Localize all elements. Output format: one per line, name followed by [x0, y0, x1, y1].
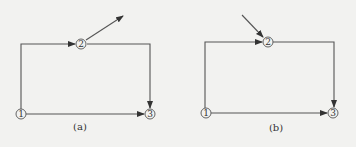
edge-incoming-to-2 [242, 15, 263, 37]
caption-a: (a) [73, 121, 87, 132]
svg-text:2: 2 [265, 37, 271, 47]
node-1: 1 [16, 109, 26, 119]
edge-1-to-2 [205, 42, 262, 108]
node-1: 1 [201, 108, 211, 118]
edge-2-outgoing [86, 16, 123, 40]
node-3: 3 [328, 108, 338, 118]
edge-1-to-2 [21, 44, 75, 109]
svg-text:1: 1 [18, 109, 24, 119]
panel-a: 1 2 3 (a) [16, 16, 155, 132]
edge-2-to-3 [87, 44, 150, 108]
svg-text:3: 3 [147, 109, 153, 119]
node-3: 3 [145, 109, 155, 119]
caption-b: (b) [269, 122, 283, 133]
edge-2-to-3 [273, 42, 334, 107]
node-2: 2 [76, 39, 86, 49]
flow-network-figure: 1 2 3 (a) 1 2 [0, 0, 356, 147]
svg-text:3: 3 [330, 108, 336, 118]
svg-text:1: 1 [203, 108, 209, 118]
svg-text:2: 2 [78, 39, 84, 49]
panel-b: 1 2 3 (b) [201, 15, 338, 133]
node-2: 2 [263, 37, 273, 47]
